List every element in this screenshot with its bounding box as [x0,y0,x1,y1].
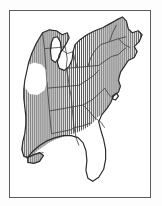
map-frame: Outline map of the eastern United States… [9,10,151,198]
range-hatching [10,11,150,197]
figure-root: Outline map of the eastern United States… [0,0,162,206]
distribution-map [10,11,150,197]
